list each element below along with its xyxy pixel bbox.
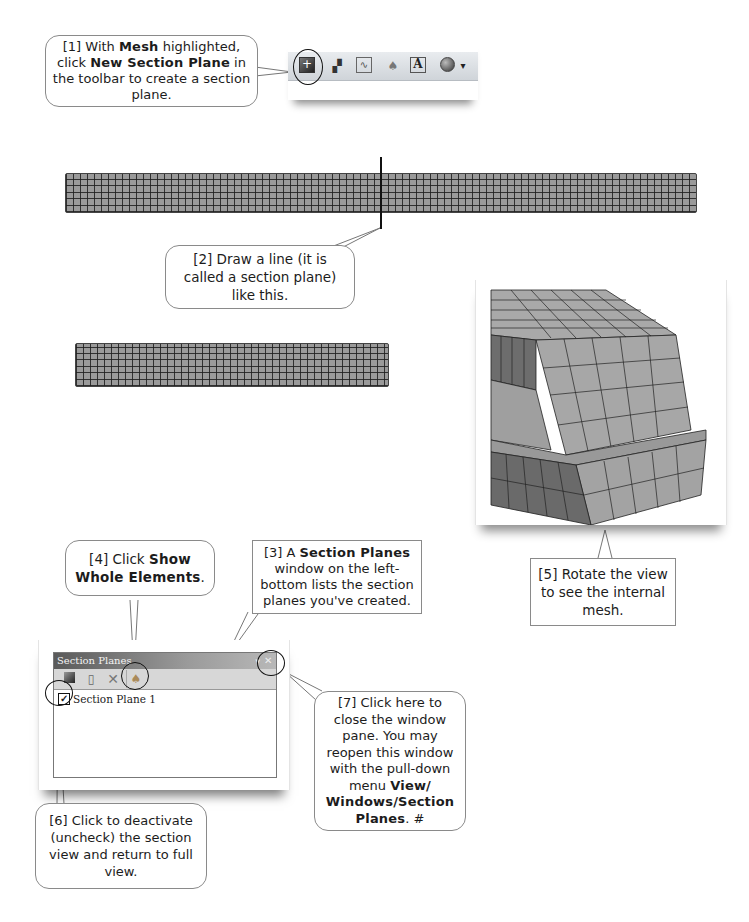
highlight-circle [293,49,323,85]
text-annotation-icon[interactable]: A [410,57,426,73]
section-planes-list: ✓ Section Plane 1 [54,690,276,777]
callout-step-1: [1] With Mesh highlighted, click New Sec… [45,35,258,107]
duplicate-plane-icon[interactable]: ▯ [82,670,100,688]
window-title-bar[interactable]: Section Planes ▾ ✕ [54,653,276,669]
section-planes-window: Section Planes ▾ ✕ ▯ ✕ ♠ ✓ Section Plane… [53,652,277,778]
highlight-circle-show-whole [121,662,149,690]
callout-step-2: [2] Draw a line (it is called a section … [165,245,355,309]
bell-icon[interactable]: ♠ [384,57,402,75]
highlight-circle-checkbox [45,680,73,706]
section-planes-toolbar: ▯ ✕ ♠ [54,669,276,690]
delete-icon[interactable]: ✕ [104,670,122,688]
callout-step-7: [7] Click here to close the window pane.… [314,691,466,831]
callout-step-3: [3] A Section Planes window on the left-… [252,540,422,614]
highlight-circle-close [257,650,285,676]
section-plane-label: Section Plane 1 [73,692,156,706]
chevron-down-icon[interactable]: ▾ [454,57,472,75]
new-section-plane-alt-icon[interactable]: ▞ [328,57,346,75]
callout-step-4: [4] Click Show Whole Elements. [65,540,215,596]
3d-mesh-render [476,280,726,525]
window-title: Section Planes [57,655,132,666]
callout-step-6: [6] Click to deactivate (uncheck) the se… [35,803,207,889]
chart-icon[interactable]: ∿ [356,57,372,73]
callout-step-5: [5] Rotate the view to see the internal … [530,558,676,626]
section-planes-window-screenshot: Section Planes ▾ ✕ ▯ ✕ ♠ ✓ Section Plane… [38,640,290,790]
main-toolbar-screenshot: + ▞ ∿ ♠ A ▾ [288,38,478,100]
rotated-3d-view [475,280,727,525]
mesh-bar-sectioned [75,343,389,387]
section-plane-line[interactable] [380,157,382,229]
